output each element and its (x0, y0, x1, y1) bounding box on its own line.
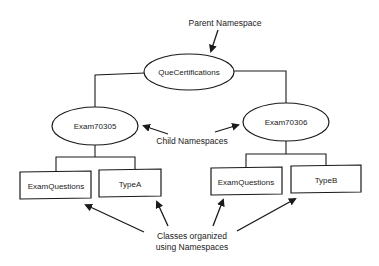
child-label-left: Exam70305 (74, 122, 117, 131)
classes-label-line2: using Namespaces (156, 242, 228, 252)
child-namespaces-label: Child Namespaces (156, 136, 227, 146)
parent-arrow (211, 30, 218, 51)
class-node-examquestions-left: ExamQuestions (20, 171, 91, 199)
root-namespace-node: QueCertifications (144, 54, 234, 90)
connector-root-left (95, 73, 145, 107)
root-label: QueCertifications (158, 68, 219, 77)
diagram-svg: Parent Namespace QueCertifications Exam7… (0, 0, 379, 266)
class-node-examquestions-right: ExamQuestions (211, 167, 282, 195)
child-arrow-left (144, 126, 168, 134)
classes-arrow-2 (157, 202, 168, 226)
class-node-typeb: TypeB (291, 165, 361, 193)
class-label: ExamQuestions (28, 182, 84, 191)
connector-root-right (232, 71, 286, 103)
classes-arrow-4 (237, 199, 295, 231)
namespace-diagram: Parent Namespace QueCertifications Exam7… (0, 0, 379, 266)
class-label: TypeA (119, 180, 142, 189)
child-namespace-node-right: Exam70306 (243, 103, 329, 141)
class-label: TypeB (315, 176, 338, 185)
child-namespace-node-left: Exam70305 (52, 107, 138, 145)
parent-namespace-label: Parent Namespace (189, 18, 262, 28)
classes-arrow-1 (86, 205, 144, 232)
class-label: ExamQuestions (218, 178, 274, 187)
classes-arrow-3 (213, 200, 223, 226)
class-node-typea: TypeA (99, 169, 161, 197)
child-arrow-right (215, 125, 238, 132)
child-label-right: Exam70306 (265, 118, 308, 127)
classes-label-line1: Classes organized (157, 231, 227, 241)
